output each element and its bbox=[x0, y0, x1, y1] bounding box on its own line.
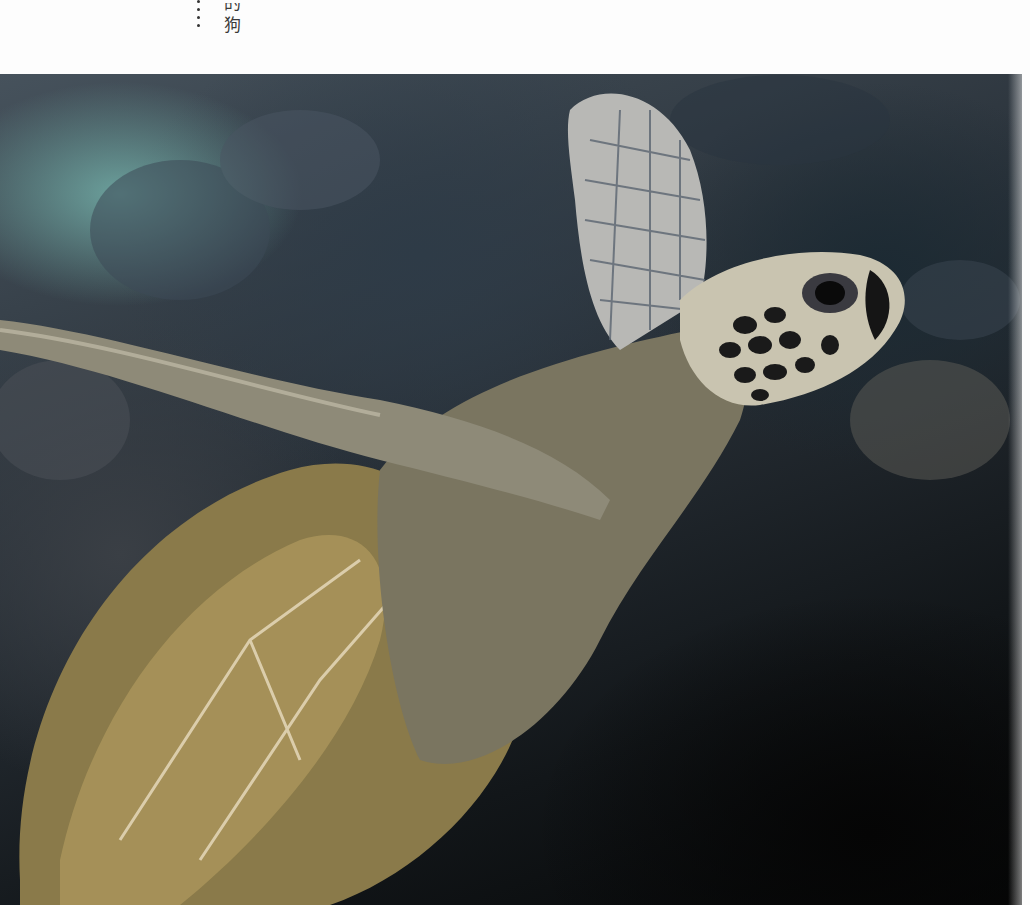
text-char: 的 bbox=[224, 0, 241, 14]
turtle-illustration bbox=[0, 74, 1022, 905]
text-char: 狗 bbox=[224, 14, 241, 36]
page-edge-fade bbox=[1008, 74, 1022, 905]
ellipsis-vertical bbox=[197, 0, 200, 27]
sea-turtle-photo bbox=[0, 74, 1022, 905]
turtle-neck bbox=[377, 328, 747, 763]
vertical-text-column: 的 狗 bbox=[224, 0, 241, 36]
page-top-margin: 的 狗 bbox=[0, 0, 1030, 74]
